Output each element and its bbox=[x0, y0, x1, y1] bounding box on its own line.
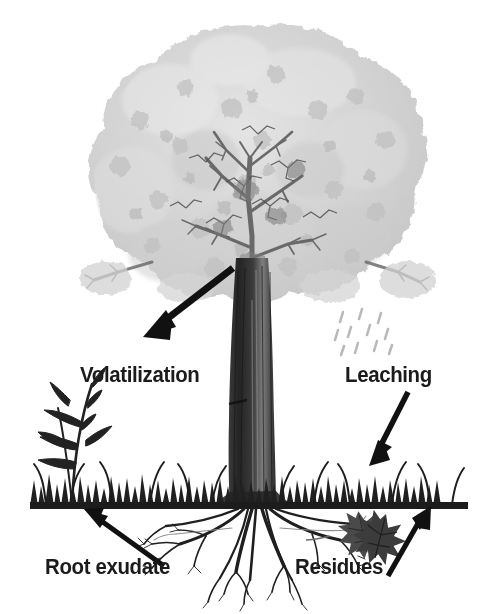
label-residues: Residues bbox=[295, 556, 383, 578]
label-volatilization: Volatilization bbox=[80, 364, 199, 386]
label-root-exudate: Root exudate bbox=[45, 556, 170, 578]
rain-droplets bbox=[335, 309, 392, 355]
soil-surface-line bbox=[30, 502, 468, 509]
diagram-graphics bbox=[0, 0, 497, 614]
pesticide-fate-diagram: Volatilization Leaching Root exudate Res… bbox=[0, 0, 497, 614]
label-leaching: Leaching bbox=[345, 364, 432, 386]
arrow-leaching bbox=[369, 392, 408, 466]
